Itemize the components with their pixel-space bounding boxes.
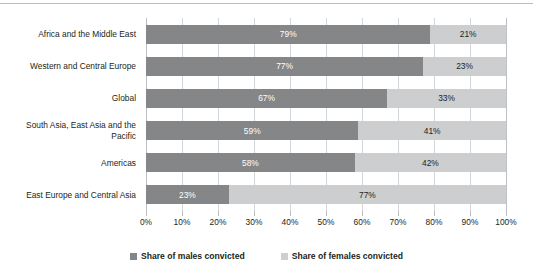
bar-segment-male[interactable]: 59% [146, 121, 358, 140]
bar-value-label: 58% [242, 158, 259, 168]
category-label: South Asia, East Asia and thePacific [4, 120, 136, 141]
gridline [362, 18, 363, 211]
bar-row[interactable]: 58%42% [146, 153, 506, 172]
legend-swatch-female-icon [281, 253, 288, 260]
bar-row[interactable]: 59%41% [146, 121, 506, 140]
x-axis-tick [434, 211, 435, 216]
category-label: Western and Central Europe [4, 61, 136, 72]
bar-value-label: 67% [258, 93, 275, 103]
legend-label: Share of males convicted [141, 251, 245, 261]
bar-segment-male[interactable]: 58% [146, 153, 355, 172]
x-axis-tick [470, 211, 471, 216]
category-label: Global [4, 93, 136, 104]
category-label: Africa and the Middle East [4, 29, 136, 40]
x-axis-tick [146, 211, 147, 216]
bar-value-label: 23% [179, 190, 196, 200]
bar-segment-female[interactable]: 21% [430, 25, 506, 44]
category-axis: Africa and the Middle EastWestern and Ce… [4, 18, 142, 211]
bar-segment-male[interactable]: 23% [146, 185, 229, 204]
gridline [470, 18, 471, 211]
gridline [182, 18, 183, 211]
gridline [326, 18, 327, 211]
bar-value-label: 79% [280, 29, 297, 39]
bar-segment-female[interactable]: 33% [387, 89, 506, 108]
bar-row[interactable]: 77%23% [146, 57, 506, 76]
bar-segment-male[interactable]: 79% [146, 25, 430, 44]
bar-row[interactable]: 23%77% [146, 185, 506, 204]
gridline [146, 18, 147, 211]
x-axis-tick-label: 70% [390, 217, 407, 227]
x-axis-tick [326, 211, 327, 216]
bar-value-label: 42% [422, 158, 439, 168]
chart-legend: Share of males convictedShare of females… [0, 248, 533, 264]
gridline [290, 18, 291, 211]
bar-value-label: 23% [456, 61, 473, 71]
gridline [434, 18, 435, 211]
gridline [254, 18, 255, 211]
bar-value-label: 21% [460, 29, 477, 39]
legend-label: Share of females convicted [292, 251, 403, 261]
x-axis-tick-label: 60% [354, 217, 371, 227]
bar-value-label: 77% [359, 190, 376, 200]
bar-value-label: 41% [424, 126, 441, 136]
x-axis-tick-label: 30% [246, 217, 263, 227]
x-axis-tick-label: 20% [210, 217, 227, 227]
bar-segment-female[interactable]: 23% [423, 57, 506, 76]
legend-item[interactable]: Share of males convicted [130, 251, 245, 261]
bar-segment-female[interactable]: 77% [229, 185, 506, 204]
x-axis-tick-label: 40% [282, 217, 299, 227]
x-axis-ticks [146, 211, 506, 216]
legend-item[interactable]: Share of females convicted [281, 251, 403, 261]
category-label: Americas [4, 158, 136, 169]
x-axis-tick [506, 211, 507, 216]
bar-value-label: 33% [438, 93, 455, 103]
x-axis-tick [362, 211, 363, 216]
x-axis-tick [290, 211, 291, 216]
category-label: East Europe and Central Asia [4, 190, 136, 201]
gridline [506, 18, 507, 211]
x-axis-labels: 0%10%20%30%40%50%60%70%80%90%100% [146, 217, 506, 231]
bar-row[interactable]: 67%33% [146, 89, 506, 108]
gridlines [146, 18, 506, 211]
x-axis-tick [254, 211, 255, 216]
x-axis-tick-label: 80% [426, 217, 443, 227]
x-axis-tick [398, 211, 399, 216]
x-axis-tick [218, 211, 219, 216]
bar-segment-female[interactable]: 41% [358, 121, 506, 140]
x-axis-tick-label: 0% [140, 217, 152, 227]
x-axis-tick-label: 90% [462, 217, 479, 227]
x-axis-tick-label: 50% [318, 217, 335, 227]
bar-segment-female[interactable]: 42% [355, 153, 506, 172]
bar-value-label: 59% [244, 126, 261, 136]
plot-area: 79%21%77%23%67%33%59%41%58%42%23%77% [146, 18, 506, 211]
legend-swatch-male-icon [130, 253, 137, 260]
gridline [398, 18, 399, 211]
bar-segment-male[interactable]: 67% [146, 89, 387, 108]
bar-row[interactable]: 79%21% [146, 25, 506, 44]
bar-value-label: 77% [276, 61, 293, 71]
gridline [218, 18, 219, 211]
x-axis-tick [182, 211, 183, 216]
bar-segment-male[interactable]: 77% [146, 57, 423, 76]
x-axis-tick-label: 10% [174, 217, 191, 227]
stacked-bar-chart: Africa and the Middle EastWestern and Ce… [0, 0, 533, 277]
x-axis-tick-label: 100% [495, 217, 516, 227]
